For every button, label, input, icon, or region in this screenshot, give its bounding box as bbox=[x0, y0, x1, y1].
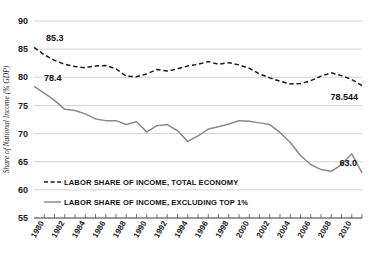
y-axis-title: Share of National Income (% GDP) bbox=[2, 65, 11, 173]
chart-container: 9085807570656055 19801982198419861988199… bbox=[0, 0, 369, 258]
data-point-label: 78.544 bbox=[330, 92, 358, 102]
y-axis-tick-label: 85 bbox=[18, 44, 28, 54]
legend-label: LABOR SHARE OF INCOME, TOTAL ECONOMY bbox=[64, 178, 238, 187]
y-axis-tick-label: 70 bbox=[18, 129, 28, 139]
y-axis-tick-label: 75 bbox=[18, 101, 28, 111]
y-axis-tick-label: 60 bbox=[18, 185, 28, 195]
y-axis-tick-label: 80 bbox=[18, 72, 28, 82]
data-point-label: 63.0 bbox=[339, 158, 357, 168]
y-axis-tick-label: 90 bbox=[18, 16, 28, 26]
y-axis-tick-label: 55 bbox=[18, 213, 28, 223]
data-point-label: 78.4 bbox=[44, 73, 62, 83]
data-point-label: 85.3 bbox=[46, 33, 64, 43]
legend-label: LABOR SHARE OF INCOME, EXCLUDING TOP 1% bbox=[64, 198, 248, 207]
line-chart: 9085807570656055 19801982198419861988199… bbox=[0, 0, 369, 258]
y-axis-tick-label: 65 bbox=[18, 157, 28, 167]
